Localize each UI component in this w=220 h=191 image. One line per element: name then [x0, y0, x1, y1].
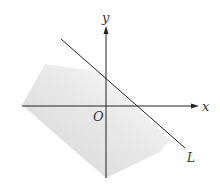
y-axis-arrow-icon — [104, 26, 109, 34]
coordinate-diagram: y x O L — [0, 0, 220, 191]
origin-label: O — [93, 109, 104, 124]
line-label: L — [186, 151, 195, 165]
x-axis-label: x — [202, 99, 210, 114]
y-axis-label: y — [101, 10, 110, 25]
x-axis-arrow-icon — [191, 104, 199, 109]
